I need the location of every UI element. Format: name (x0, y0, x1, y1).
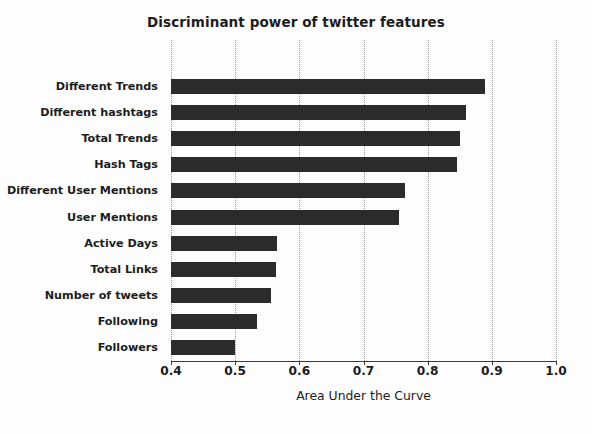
x-axis-title: Area Under the Curve (171, 388, 556, 403)
y-axis-label: Different User Mentions (0, 183, 163, 198)
y-axis-label: Different Trends (0, 79, 163, 94)
y-axis-label: Total Links (0, 262, 163, 277)
y-axis-label: Active Days (0, 236, 163, 251)
y-axis-label: Total Trends (0, 131, 163, 146)
y-axis-label: User Mentions (0, 210, 163, 225)
x-tick-label: 0.6 (269, 364, 329, 378)
y-axis-label: Followers (0, 340, 163, 355)
chart-figure: Discriminant power of twitter features D… (0, 0, 592, 434)
y-axis-label: Number of tweets (0, 288, 163, 303)
x-tick-label: 0.7 (334, 364, 394, 378)
x-tick-label: 1.0 (526, 364, 586, 378)
y-axis-label: Hash Tags (0, 157, 163, 172)
x-tick-label: 0.8 (398, 364, 458, 378)
x-tick-label: 0.9 (462, 364, 522, 378)
x-tick-label: 0.4 (141, 364, 201, 378)
y-axis-label: Different hashtags (0, 105, 163, 120)
x-tick-label: 0.5 (205, 364, 265, 378)
y-axis-label: Following (0, 314, 163, 329)
